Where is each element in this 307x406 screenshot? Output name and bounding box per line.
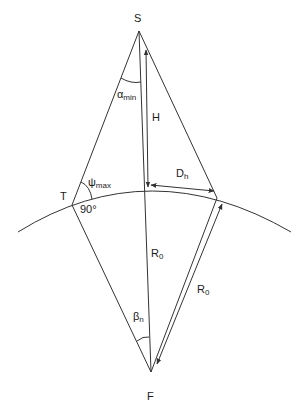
beta-angle-arc <box>137 337 149 341</box>
label-psi-max: ψmax <box>88 176 111 190</box>
label-alpha-min: αmin <box>117 88 136 102</box>
label-T: T <box>60 190 67 202</box>
radius-arrow <box>157 204 222 364</box>
geometry-diagram: S F T αmin ψmax 90° H Dh R0 R0 βn <box>0 0 307 406</box>
line-P-F <box>151 198 217 372</box>
label-beta-n: βn <box>133 310 144 324</box>
height-arrow <box>146 50 148 187</box>
label-R0-right: R0 <box>197 283 210 297</box>
label-R0-center: R0 <box>151 247 164 261</box>
distance-arrow <box>151 185 214 191</box>
label-90-degrees: 90° <box>80 203 97 215</box>
label-D-h: Dh <box>176 167 188 181</box>
alpha-angle-arc <box>121 78 141 83</box>
earth-surface-arc <box>18 191 291 232</box>
label-S: S <box>134 12 141 24</box>
line-S-T <box>72 31 139 205</box>
label-H: H <box>152 111 160 123</box>
line-T-F <box>72 205 151 372</box>
label-F: F <box>147 390 154 402</box>
